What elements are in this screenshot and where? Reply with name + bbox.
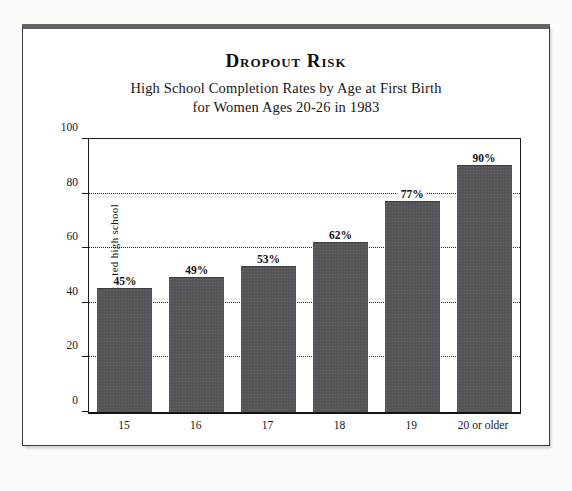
y-axis-tick-label: 60 [67, 230, 79, 242]
x-axis-tick-label: 19 [375, 419, 447, 431]
bar-value-label: 62% [326, 229, 355, 241]
y-axis-tick-label: 80 [67, 176, 79, 188]
figure-inner: Dropout Risk High School Completion Rate… [23, 29, 549, 445]
y-axis-tick [82, 247, 89, 248]
bar-value-label: 77% [398, 188, 427, 200]
chart-subtitle-line-1: High School Completion Rates by Age at F… [23, 79, 549, 98]
chart-subtitle-line-2: for Women Ages 20-26 in 1983 [23, 98, 549, 117]
plot-area: Percent completed high school 0204060801… [88, 138, 521, 414]
y-axis-tick-label: 20 [67, 339, 79, 351]
bar[interactable]: 62% [313, 242, 368, 412]
bar-slot: 90% [448, 139, 520, 412]
bar[interactable]: 49% [169, 277, 224, 412]
bar-slot: 77% [376, 139, 448, 412]
x-axis-tick-label: 16 [160, 419, 232, 431]
bar-slot: 53% [233, 139, 305, 412]
y-axis-tick [82, 411, 89, 412]
x-axis-tick-label: 17 [232, 419, 304, 431]
x-axis-tick-label: 20 or older [447, 419, 519, 431]
y-axis-tick [82, 193, 89, 194]
bar-slot: 45% [89, 139, 161, 412]
y-axis-tick-label: 40 [67, 285, 79, 297]
figure-frame: Dropout Risk High School Completion Rate… [22, 24, 550, 446]
chart-subtitle: High School Completion Rates by Age at F… [23, 79, 549, 117]
bar[interactable]: 45% [97, 288, 152, 412]
y-axis-tick [82, 356, 89, 357]
bar-value-label: 53% [254, 253, 283, 265]
bar-slot: 49% [161, 139, 233, 412]
bar-series: 45%49%53%62%77%90% [89, 139, 520, 412]
bar[interactable]: 53% [241, 266, 296, 412]
x-axis-tick-labels: 151617181920 or older [88, 419, 519, 431]
x-axis-tick-label: 15 [88, 419, 160, 431]
bar[interactable]: 90% [457, 165, 512, 412]
x-axis-title: Age of mother at first birth [88, 443, 519, 445]
bar-value-label: 45% [110, 275, 139, 287]
y-axis-tick-label: 0 [72, 394, 78, 406]
bar-value-label: 90% [470, 152, 499, 164]
y-axis-tick [82, 302, 89, 303]
bar-slot: 62% [304, 139, 376, 412]
bar-value-label: 49% [182, 264, 211, 276]
x-axis-tick-label: 18 [303, 419, 375, 431]
y-axis-tick [82, 138, 89, 139]
bar[interactable]: 77% [385, 201, 440, 412]
chart-title: Dropout Risk [23, 50, 549, 72]
y-axis-tick-label: 100 [61, 121, 78, 133]
